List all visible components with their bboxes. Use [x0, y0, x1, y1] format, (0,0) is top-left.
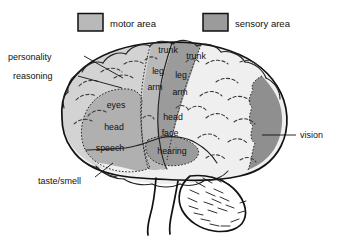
- callout-reasoning: reasoning: [13, 71, 53, 81]
- region-label-hearing: hearing: [157, 146, 186, 156]
- region-label-eyes: eyes: [107, 100, 126, 110]
- legend: motor area sensory area: [78, 14, 291, 32]
- legend-item-sensory: sensory area: [203, 14, 291, 32]
- callout-taste-smell: taste/smell: [38, 176, 81, 186]
- region-label-sensory-arm: arm: [172, 87, 187, 97]
- region-label-speech: speech: [96, 143, 124, 153]
- callout-vision: vision: [300, 130, 323, 140]
- brain-diagram-svg: motor area sensory area: [0, 0, 339, 243]
- region-label-motor-arm: arm: [147, 82, 162, 92]
- legend-label-motor: motor area: [110, 18, 157, 29]
- region-label-head: head: [104, 122, 124, 132]
- cerebellum: [179, 176, 245, 232]
- region-label-sensory-head: head: [163, 112, 183, 122]
- brain-diagram-figure: motor area sensory area: [0, 0, 339, 243]
- region-label-motor-leg: leg: [152, 66, 164, 76]
- brain-stem: [148, 178, 156, 235]
- region-label-sensory-face: face: [162, 128, 179, 138]
- callout-personality: personality: [8, 52, 52, 62]
- square-swatch-icon-sensory: [203, 14, 228, 32]
- legend-item-motor: motor area: [78, 14, 157, 32]
- legend-label-sensory: sensory area: [235, 18, 291, 29]
- region-label-motor-trunk: trunk: [158, 45, 178, 55]
- region-label-sensory-leg: leg: [175, 70, 187, 80]
- brain-stem-back: [170, 181, 178, 234]
- square-swatch-icon-motor: [78, 14, 103, 32]
- region-label-sensory-trunk: trunk: [186, 51, 206, 61]
